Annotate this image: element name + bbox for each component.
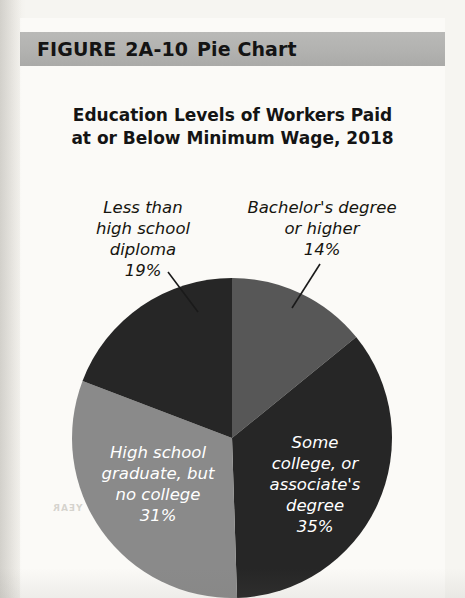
slice-label-less-than-high-school: Less than high school diploma 19% (96, 198, 191, 280)
pie-chart: Less than high school diploma 19% Bachel… (20, 160, 445, 598)
figure-number: 2A-10 (125, 38, 188, 60)
chart-title-line-1: Education Levels of Workers Paid (20, 104, 445, 127)
slice-label-line-2: or higher (284, 219, 360, 238)
scanned-page: FIGURE2A-10Pie Chart Education Levels of… (0, 0, 465, 598)
slice-label-line-1: Less than (103, 198, 182, 217)
slice-label-line-3: no college (116, 485, 201, 504)
figure-banner-text: FIGURE2A-10Pie Chart (37, 38, 297, 60)
slice-label-line-2: college, or (272, 454, 360, 473)
slice-label-line-1: Bachelor's degree (247, 198, 396, 217)
slice-label-line-4: degree (286, 496, 344, 515)
slice-value-label: 19% (125, 261, 162, 280)
pie-chart-area: Less than high school diploma 19% Bachel… (20, 160, 445, 598)
slice-label-bachelors: Bachelor's degree or higher 14% (247, 198, 396, 259)
chart-title-line-2: at or Below Minimum Wage, 2018 (20, 127, 445, 150)
slice-value-label: 35% (297, 517, 334, 536)
pie-slices (72, 278, 392, 598)
slice-label-line-1: High school (110, 443, 206, 462)
slice-label-line-2: graduate, but (102, 464, 215, 483)
slice-label-line-3: associate's (270, 475, 361, 494)
chart-title: Education Levels of Workers Paid at or B… (20, 104, 445, 150)
slice-label-line-2: high school (96, 219, 191, 238)
figure-word: FIGURE (37, 38, 116, 60)
slice-value-label: 14% (304, 240, 341, 259)
slice-label-line-1: Some (292, 433, 339, 452)
figure-title: Pie Chart (197, 38, 297, 60)
slice-value-label: 31% (140, 506, 177, 525)
slice-label-line-3: diploma (110, 240, 176, 259)
figure-banner: FIGURE2A-10Pie Chart (20, 32, 445, 66)
